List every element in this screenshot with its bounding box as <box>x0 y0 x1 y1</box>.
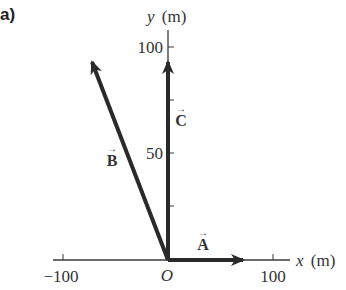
x-tick-label-neg100: −100 <box>43 267 78 286</box>
vector-b-label: → B <box>107 143 118 169</box>
origin-label: O <box>161 266 173 285</box>
vector-c-label: → C <box>175 103 187 129</box>
vector-a-label: → A <box>197 227 209 253</box>
vector-c-letter: C <box>175 112 187 129</box>
y-axis-label: y (m) <box>145 7 186 26</box>
vector-b-letter: B <box>107 152 118 169</box>
panel-label: a) <box>0 5 15 24</box>
x-axis-label: x (m) <box>295 251 335 270</box>
y-tick-label-100: 100 <box>138 38 164 57</box>
vector-diagram: a) y (m) 100 50 x (m) −100 100 O → A → B… <box>0 0 346 290</box>
y-tick-label-50: 50 <box>146 144 163 163</box>
x-tick-label-100: 100 <box>260 267 286 286</box>
vector-a-letter: A <box>197 236 209 253</box>
